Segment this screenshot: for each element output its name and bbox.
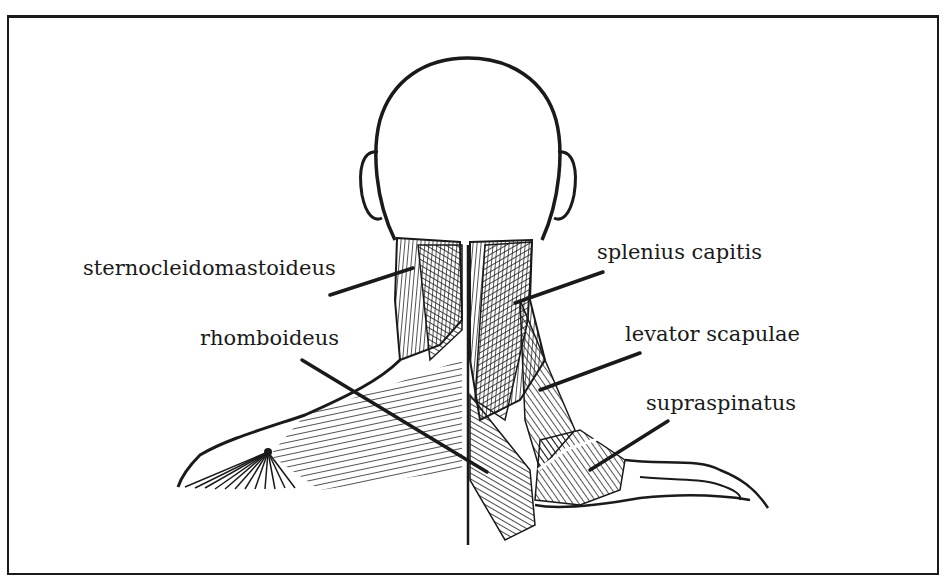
label-levator-scapulae: levator scapulae bbox=[625, 324, 800, 345]
head-outline bbox=[361, 58, 576, 240]
shoulder-right bbox=[535, 430, 768, 508]
neck-muscles-left bbox=[395, 238, 462, 360]
label-rhomboideus: rhomboideus bbox=[200, 328, 339, 349]
anatomy-illustration bbox=[0, 0, 947, 581]
label-sternocleidomastoideus: sternocleidomastoideus bbox=[83, 258, 336, 279]
leader-levator-scapulae bbox=[540, 353, 640, 390]
shoulder-left bbox=[178, 360, 462, 490]
label-splenius-capitis: splenius capitis bbox=[597, 242, 762, 263]
label-supraspinatus: supraspinatus bbox=[646, 393, 796, 414]
